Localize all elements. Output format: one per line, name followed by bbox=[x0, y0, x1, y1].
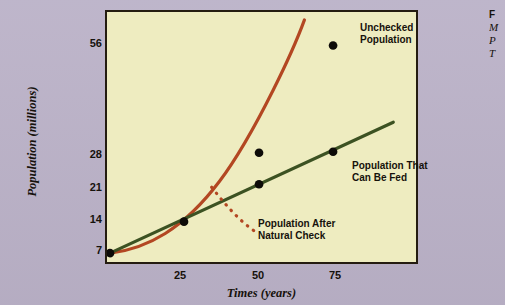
caption-line-2: P bbox=[489, 34, 505, 47]
series-population-fed-line bbox=[110, 122, 393, 253]
data-point-fed-50 bbox=[255, 180, 264, 189]
caption-line-3: T bbox=[489, 47, 505, 60]
x-axis-tick-labels: 25 50 75 bbox=[0, 269, 505, 285]
x-tick-75: 75 bbox=[315, 269, 355, 281]
x-axis-title: Times (years) bbox=[105, 286, 418, 301]
figure-page: Unchecked Population Population That Can… bbox=[0, 0, 505, 305]
data-point-unchecked-75 bbox=[329, 41, 338, 50]
y-axis-tick-labels: 56 28 21 14 7 bbox=[62, 0, 102, 305]
caption-heading: F bbox=[489, 8, 505, 21]
data-point-unchecked-50 bbox=[255, 148, 264, 157]
y-tick-56: 56 bbox=[68, 38, 102, 49]
series-natural-check-line bbox=[212, 187, 255, 231]
x-tick-50: 50 bbox=[238, 269, 278, 281]
annotation-population-that-can-be-fed: Population That Can Be Fed bbox=[352, 160, 428, 183]
y-tick-21: 21 bbox=[68, 182, 102, 193]
annotation-unchecked-population: Unchecked Population bbox=[360, 22, 413, 45]
y-tick-14: 14 bbox=[68, 214, 102, 225]
y-tick-7: 7 bbox=[68, 245, 102, 256]
y-tick-28: 28 bbox=[68, 149, 102, 160]
x-tick-25: 25 bbox=[160, 269, 200, 281]
data-point-unchecked-25 bbox=[180, 217, 189, 226]
figure-caption-cropped: F M P T bbox=[489, 8, 505, 60]
y-axis-title: Population (millions) bbox=[25, 57, 40, 227]
caption-line-1: M bbox=[489, 21, 505, 34]
annotation-population-after-natural-check: Population After Natural Check bbox=[258, 218, 335, 241]
data-point-fed-75 bbox=[329, 147, 338, 156]
